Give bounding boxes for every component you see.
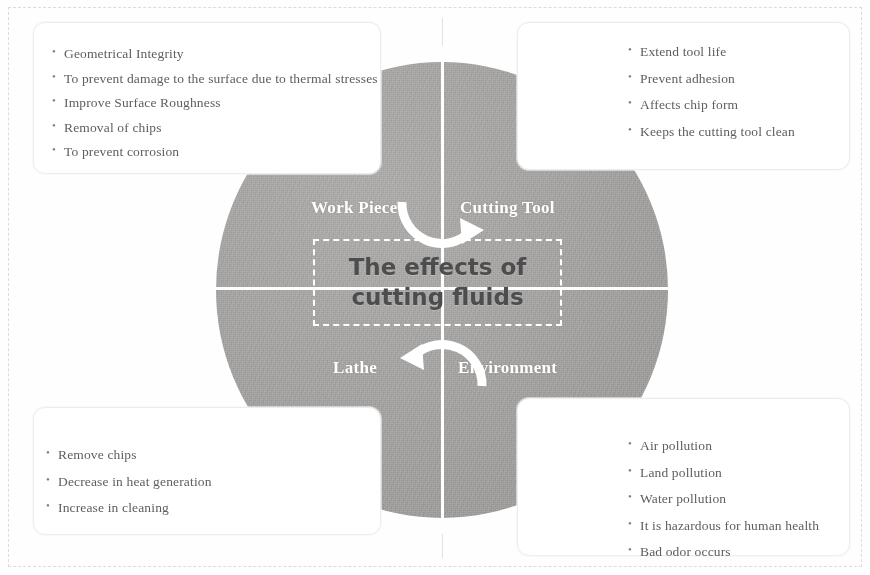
work-piece-list: Geometrical Integrity To prevent damage …: [52, 45, 380, 161]
list-item: Improve Surface Roughness: [52, 94, 380, 112]
card-cutting-tool: Extend tool life Prevent adhesion Affect…: [517, 22, 850, 170]
environment-list: Air pollution Land pollution Water pollu…: [628, 437, 849, 561]
card-work-piece: Geometrical Integrity To prevent damage …: [33, 22, 381, 174]
list-item: Prevent adhesion: [628, 70, 849, 88]
list-item: Decrease in heat generation: [46, 473, 380, 491]
quadrant-label-cutting-tool: Cutting Tool: [460, 198, 555, 218]
list-item: It is hazardous for human health: [628, 517, 849, 535]
list-item: Geometrical Integrity: [52, 45, 380, 63]
list-item: Affects chip form: [628, 96, 849, 114]
list-item: Land pollution: [628, 464, 849, 482]
list-item: Increase in cleaning: [46, 499, 380, 517]
center-title-box: The effects of cutting fluids: [313, 239, 562, 326]
list-item: To prevent corrosion: [52, 143, 380, 161]
list-item: Extend tool life: [628, 43, 849, 61]
list-item: Removal of chips: [52, 119, 380, 137]
quadrant-label-environment: Environment: [458, 358, 557, 378]
list-item: Keeps the cutting tool clean: [628, 123, 849, 141]
cutting-tool-list: Extend tool life Prevent adhesion Affect…: [628, 43, 849, 140]
title-line-1: The effects of: [349, 253, 527, 282]
card-lathe: Remove chips Decrease in heat generation…: [33, 407, 381, 535]
list-item: Bad odor occurs: [628, 543, 849, 561]
quadrant-label-work-piece: Work Piece: [311, 198, 398, 218]
list-item: Water pollution: [628, 490, 849, 508]
list-item: To prevent damage to the surface due to …: [52, 70, 380, 88]
lathe-list: Remove chips Decrease in heat generation…: [46, 446, 380, 517]
card-environment: Air pollution Land pollution Water pollu…: [517, 398, 850, 556]
diagram-page: Work Piece Cutting Tool Lathe Environmen…: [0, 0, 870, 575]
title-line-2: cutting fluids: [351, 283, 523, 312]
list-item: Remove chips: [46, 446, 380, 464]
quadrant-label-lathe: Lathe: [333, 358, 377, 378]
list-item: Air pollution: [628, 437, 849, 455]
